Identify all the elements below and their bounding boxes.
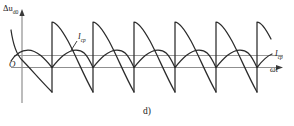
y-axis-label-sub: d0: [13, 9, 19, 15]
x-axis-label-tail: t: [276, 65, 278, 74]
icp-ripple-curve: [11, 50, 272, 68]
figure-container: Δud0 O Icp Icp ωt d): [0, 0, 294, 126]
icp-inner-label-sub: cp: [81, 37, 86, 43]
sawtooth-ripple-curve: [11, 22, 271, 92]
y-axis-label-main: Δu: [3, 3, 13, 13]
icp-axis-label-sub: cp: [278, 54, 283, 60]
x-axis-label: ωt: [270, 66, 278, 74]
y-axis-label: Δud0: [3, 4, 18, 15]
origin-label: O: [9, 60, 16, 69]
figure-caption: d): [0, 106, 294, 116]
icp-leader-line: [71, 41, 77, 51]
icp-axis-label: Icp: [275, 50, 283, 60]
icp-inner-label: Icp: [78, 33, 86, 43]
